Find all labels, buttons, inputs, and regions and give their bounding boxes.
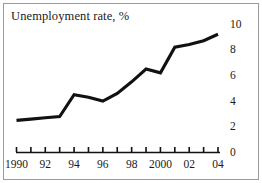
x-axis-tick-label: 02 — [183, 159, 195, 171]
chart-figure: Unemployment rate, % 0246810 19909294969… — [0, 0, 262, 183]
line-chart-plot — [0, 0, 262, 183]
y-axis-tick-label: 8 — [230, 44, 250, 56]
x-axis-tick-label: 96 — [97, 159, 109, 171]
y-axis-tick-label: 6 — [230, 70, 250, 82]
x-axis-tick-label: 1990 — [5, 159, 28, 171]
data-line-unemployment-rate — [17, 34, 219, 120]
y-axis-tick-label: 4 — [230, 96, 250, 108]
y-axis-tick-label: 2 — [230, 121, 250, 133]
x-axis-tick-label: 98 — [126, 159, 138, 171]
x-axis-tick-label: 2000 — [149, 159, 172, 171]
x-axis-ticks — [17, 147, 219, 152]
y-axis-tick-label: 10 — [230, 19, 250, 31]
x-axis-tick-label: 92 — [40, 159, 52, 171]
y-axis-tick-label: 0 — [230, 147, 250, 159]
x-axis-group — [16, 147, 220, 153]
x-axis-tick-label: 04 — [212, 159, 224, 171]
data-series-group — [17, 34, 219, 120]
x-axis-tick-label: 94 — [68, 159, 80, 171]
